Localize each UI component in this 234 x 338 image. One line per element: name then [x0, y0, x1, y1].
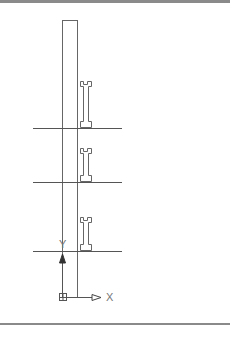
i-beam-section-3: [81, 218, 92, 251]
y-axis-label: Y: [59, 238, 67, 250]
y-axis-arrow-icon: [60, 254, 66, 263]
viewport-bottom-border: [0, 323, 230, 325]
i-beam-section-2: [81, 149, 92, 182]
drawing-canvas[interactable]: Y X: [0, 0, 234, 338]
column: [63, 21, 78, 298]
x-axis-arrow-icon: [92, 295, 101, 301]
x-axis-label: X: [106, 291, 114, 303]
ucs-icon: Y X: [59, 238, 114, 303]
i-beam-section-1: [81, 82, 92, 128]
